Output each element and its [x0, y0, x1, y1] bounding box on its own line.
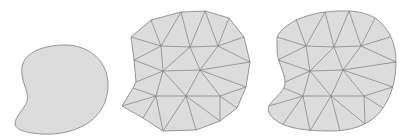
domain-shape — [15, 45, 108, 134]
mesh-boundary — [122, 11, 250, 131]
fitted-mesh-boundary — [268, 11, 396, 131]
panel-smooth-domain — [15, 45, 108, 134]
panel-fitted-mesh — [268, 11, 396, 131]
figure — [0, 0, 409, 139]
mesh-figure-svg — [0, 0, 409, 139]
panel-initial-mesh — [122, 11, 250, 131]
